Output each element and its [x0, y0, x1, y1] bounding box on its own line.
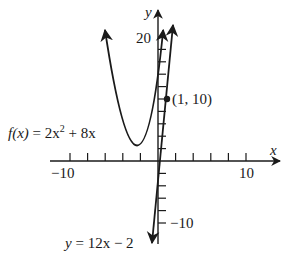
point-label: (1, 10)	[172, 91, 212, 108]
y-axis-label: y	[143, 4, 152, 20]
parabola-curve	[105, 30, 163, 146]
graph: y x 20 −10 −10 10 (1, 10) f(x) = 2x2 + 8…	[0, 0, 286, 255]
x-axis-label: x	[269, 142, 277, 158]
y-tick-label-minus10: −10	[170, 215, 193, 231]
x-tick-label-minus10: −10	[51, 165, 74, 181]
x-tick-label-10: 10	[239, 165, 254, 181]
parabola-label: f(x) = 2x2 + 8x	[8, 123, 96, 142]
y-tick-label-20: 20	[136, 30, 151, 46]
line-label: y = 12x − 2	[63, 235, 134, 251]
point-marker	[164, 96, 170, 102]
